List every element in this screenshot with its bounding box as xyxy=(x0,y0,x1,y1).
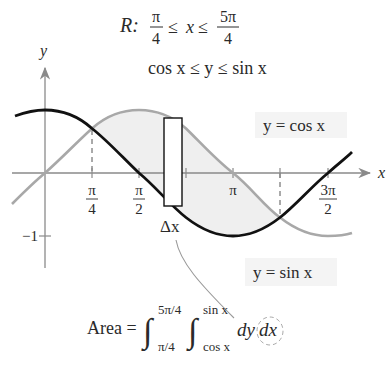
outer-differential: dx xyxy=(259,319,278,340)
inner-integral-sign: ∫ xyxy=(186,312,200,352)
y-tick-neg1: −1 xyxy=(22,228,38,244)
y-bounds: cos x ≤ y ≤ sin x xyxy=(148,58,267,78)
inner-lower-limit: cos x xyxy=(203,339,231,354)
x-tick-pi4-den: 4 xyxy=(88,201,96,217)
x-tick-pi: π xyxy=(229,182,237,198)
x-var: x xyxy=(185,17,194,37)
diagram-canvas: R: π 4 ≤ x ≤ 5π 4 cos x ≤ y ≤ sin x x y … xyxy=(0,0,389,372)
leq-2: ≤ xyxy=(198,17,208,37)
x-tick-pi2-den: 2 xyxy=(135,201,143,217)
x-upper-den: 4 xyxy=(224,30,232,47)
cos-curve-label: y = cos x xyxy=(263,116,325,135)
x-tick-pi2-num: π xyxy=(135,182,143,198)
outer-integral-sign: ∫ xyxy=(141,312,155,352)
outer-upper-limit: 5π/4 xyxy=(158,302,182,317)
x-upper-num: 5π xyxy=(220,8,236,25)
x-lower-num: π xyxy=(152,8,160,25)
outer-lower-limit: π/4 xyxy=(158,339,175,354)
inner-differential: dy xyxy=(237,319,256,340)
area-formula: Area = ∫ 5π/4 π/4 ∫ sin x cos x dy dx xyxy=(87,302,283,354)
x-lower-den: 4 xyxy=(152,30,160,47)
delta-x-label: Δx xyxy=(160,217,180,236)
x-tick-3pi2-num: 3π xyxy=(320,182,336,198)
leq-1: ≤ xyxy=(168,17,178,37)
y-axis-label: y xyxy=(38,42,48,60)
sin-curve-label: y = sin x xyxy=(253,263,313,282)
inner-upper-limit: sin x xyxy=(203,302,228,317)
x-tick-3pi2-den: 2 xyxy=(324,201,332,217)
region-label: R: xyxy=(119,14,139,36)
x-tick-pi4-num: π xyxy=(88,182,96,198)
area-prefix: Area = xyxy=(87,318,137,338)
delta-x-strip xyxy=(164,118,182,206)
region-definition: R: π 4 ≤ x ≤ 5π 4 cos x ≤ y ≤ sin x xyxy=(119,8,267,78)
x-axis-label: x xyxy=(377,164,385,181)
